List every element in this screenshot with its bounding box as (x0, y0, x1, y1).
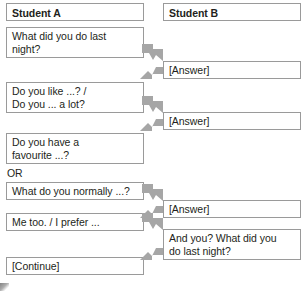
arrow-to-student-b-1 (142, 44, 164, 62)
student-a-turn-3: Do you have a favourite ...? (6, 133, 144, 164)
arrow-head-icon (140, 205, 163, 218)
student-a-turn-6: [Continue] (6, 257, 144, 275)
or-separator: OR (7, 167, 23, 180)
student-b-turn-2: [Answer] (163, 112, 301, 130)
student-b-turn-4: And you? What did you do last night? (163, 229, 301, 260)
student-a-turn-5: Me too. / I prefer ... (6, 213, 144, 231)
arrow-to-student-b-3 (142, 184, 164, 202)
arrow-head-icon (140, 66, 163, 79)
arrow-to-student-a-2 (140, 118, 164, 136)
student-a-turn-4: What do you normally ...? (6, 182, 144, 200)
arrow-head-icon (140, 118, 163, 131)
column-header-student-b: Student B (163, 3, 301, 21)
arrow-head-icon (142, 96, 163, 113)
arrow-to-student-a-3 (140, 205, 164, 223)
student-b-turn-3: [Answer] (163, 200, 301, 218)
arrow-head-icon (140, 247, 163, 260)
arrow-to-student-a-1 (140, 66, 164, 84)
arrow-to-student-b-2 (142, 96, 164, 114)
arrow-to-student-a-4 (140, 247, 164, 265)
student-a-turn-2: Do you like ...? / Do you ... a lot? (6, 82, 144, 113)
arrow-head-icon (142, 184, 163, 201)
column-header-student-a: Student A (6, 3, 144, 21)
worksheet-diagram: Student A Student B What did you do last… (0, 0, 306, 291)
scan-artifact (0, 283, 9, 291)
student-b-turn-1: [Answer] (163, 61, 301, 79)
student-a-turn-1: What did you do last night? (6, 27, 144, 58)
arrow-head-icon (142, 44, 163, 61)
